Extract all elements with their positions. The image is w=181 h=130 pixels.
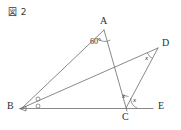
angle-mark-ABD [36,97,40,101]
angle-label-A-60: 60° [90,38,101,46]
angle-mark-DBE [36,104,40,108]
vertex-label-D: D [162,38,169,48]
vertex-label-A: A [100,16,107,26]
angle-label-BCA-x: x [122,93,125,100]
angle-label-DCE-x: x [133,97,136,104]
vertex-label-C: C [122,112,129,122]
segment-BD [22,48,158,108]
geometry-figure-root: 図 2 A B C D E 60° x x x [0,0,181,130]
vertex-label-B: B [7,101,14,111]
vertex-label-E: E [158,101,164,111]
geometry-canvas [0,0,181,130]
angle-label-D-x: x [145,55,148,62]
